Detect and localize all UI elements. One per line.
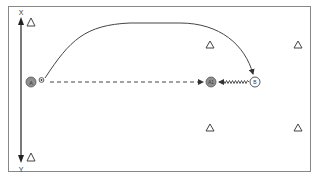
player-a: A [26, 77, 36, 87]
arrow-down-icon [18, 155, 24, 163]
dribble-path [219, 81, 249, 84]
cone-icon [27, 153, 35, 161]
cones [27, 18, 302, 161]
arrow-up-icon [18, 17, 24, 25]
soccer-ball-icon [39, 78, 44, 83]
cone-icon [294, 124, 302, 131]
run-path [45, 23, 253, 78]
player-a1: A1 [206, 77, 216, 87]
axis-label-x: X [19, 9, 24, 16]
field-border [9, 7, 311, 172]
player-b: B [250, 77, 260, 87]
cone-icon [206, 124, 214, 131]
diagram-canvas: X Y A A1 [0, 0, 315, 179]
cone-icon [294, 41, 302, 48]
player-a1-label: A1 [208, 80, 214, 85]
player-a-label: A [29, 80, 33, 86]
cone-icon [27, 18, 35, 26]
cone-icon [206, 41, 214, 48]
vertical-axis: X Y [18, 9, 24, 173]
drill-diagram: X Y A A1 [0, 0, 315, 179]
axis-label-y: Y [19, 166, 24, 173]
